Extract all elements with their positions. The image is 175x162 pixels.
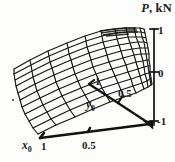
x0-axis-tick-label-1: 1	[41, 141, 47, 152]
x0-axis-tick-05	[88, 128, 90, 132]
surface-plot-figure: P, kN 1 0 -1 1 0.5 y0 x0 1 0.5	[0, 0, 175, 162]
p-axis-tick-label-1: 1	[158, 25, 164, 36]
surface-crest-shading	[100, 28, 138, 36]
plot-canvas	[0, 0, 175, 162]
surface-mesh	[14, 28, 152, 134]
y0-axis-label: y0	[86, 99, 95, 113]
x0-axis	[40, 124, 150, 138]
scan-speck	[12, 99, 14, 101]
x0-axis-label: x0	[22, 140, 32, 154]
p-axis-tick-label-0: 0	[158, 68, 164, 79]
p-axis-tick-label-minus-1: -1	[157, 116, 166, 127]
p-axis-title: P, kN	[141, 2, 172, 15]
x0-axis-tick-label-05: 0.5	[82, 140, 96, 151]
y0-axis-tick-label-1: 1	[95, 76, 101, 87]
y0-axis-tick-label-05: 0.5	[118, 88, 132, 99]
